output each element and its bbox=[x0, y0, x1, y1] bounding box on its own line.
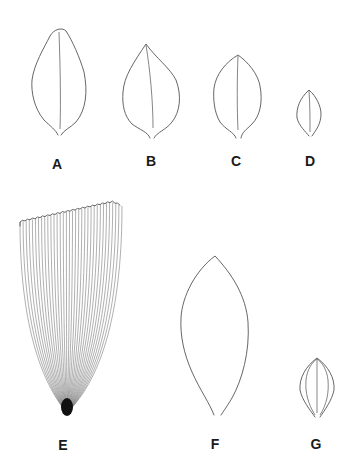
panel-label-c: C bbox=[231, 154, 241, 168]
panel-label-g: G bbox=[311, 437, 322, 451]
leaf-f-drawing bbox=[181, 256, 248, 415]
botanical-figure: A B C D E F G bbox=[0, 0, 356, 476]
leaf-c-drawing bbox=[214, 55, 261, 138]
petal-e-drawing bbox=[20, 201, 122, 416]
panel-label-f: F bbox=[211, 437, 220, 451]
leaf-b-drawing bbox=[123, 44, 180, 138]
leaf-d-drawing bbox=[297, 90, 321, 136]
panel-label-a: A bbox=[52, 157, 62, 171]
leaf-a-drawing bbox=[32, 29, 86, 135]
panel-label-e: E bbox=[58, 438, 67, 452]
figure-drawings bbox=[0, 0, 356, 476]
leaf-g-drawing bbox=[300, 358, 334, 417]
panel-label-b: B bbox=[146, 154, 156, 168]
panel-label-d: D bbox=[305, 154, 315, 168]
